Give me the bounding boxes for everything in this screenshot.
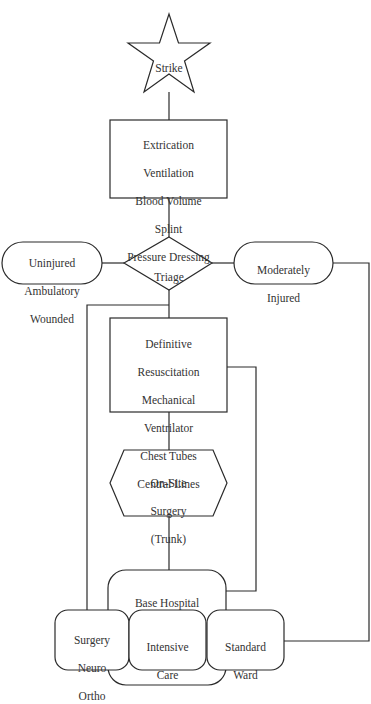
moderately-label: Moderately Injured <box>234 249 333 319</box>
onsite-surgery-label: On-Site Surgery (Trunk) <box>110 462 227 560</box>
base-hospital-label: Base Hospital <box>108 582 226 624</box>
edge-moderately-standard <box>284 263 369 641</box>
surgery-label: Surgery Neuro Ortho <box>55 619 129 704</box>
field-care-label: Extrication Ventilation Blood Volume Spl… <box>110 124 227 278</box>
strike-label: Strike <box>139 47 199 89</box>
intensive-care-label: Intensive Care <box>129 626 206 696</box>
uninjured-label: Uninjured Ambulatory Wounded <box>2 242 102 340</box>
standard-ward-label: Standard Ward <box>207 626 284 696</box>
edge-definitive-basehospital <box>226 367 256 591</box>
triage-label: Triage <box>134 256 204 298</box>
